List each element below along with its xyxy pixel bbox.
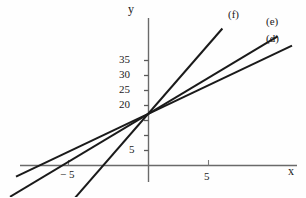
line-label-d: (d) [266, 32, 279, 44]
line-label-e: (e) [266, 15, 278, 27]
data-line-e [10, 36, 278, 197]
line-graph-svg [0, 0, 306, 197]
y-tick-label-30: 30 [119, 68, 130, 80]
x-axis-name: x [288, 164, 294, 179]
x-tick-label-minus5: − 5 [60, 168, 74, 180]
y-axis-name: y [128, 2, 134, 17]
y-tick-label-35: 35 [119, 53, 130, 65]
y-tick-label-5: 5 [129, 143, 135, 155]
line-label-f: (f) [228, 8, 239, 20]
y-tick-label-25: 25 [119, 83, 130, 95]
axes-group [20, 18, 297, 182]
x-tick-marks [69, 160, 209, 166]
y-tick-label-20: 20 [119, 98, 130, 110]
data-lines-group [10, 29, 292, 198]
x-tick-label-5: 5 [204, 170, 210, 182]
graph-figure: y x 35 30 25 20 5 − 5 5 (f) (e) (d) [0, 0, 306, 197]
